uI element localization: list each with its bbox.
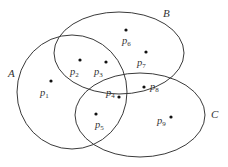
set-a-label: A (7, 67, 15, 79)
point-p5-label: p5 (94, 119, 104, 132)
point-p3-dot (104, 60, 107, 63)
point-p6-label: p6 (121, 35, 131, 48)
point-p2-label: p2 (69, 66, 79, 79)
point-p5-dot (94, 112, 97, 115)
point-p9-dot (169, 115, 172, 118)
set-b-label: B (163, 7, 170, 19)
data-points: p1p2p3p4p5p6p7p8p9 (39, 28, 173, 132)
set-ellipses: ABC (7, 7, 219, 157)
point-p1-label: p1 (39, 87, 49, 100)
point-p6-dot (124, 28, 127, 31)
point-p9-label: p9 (156, 115, 166, 128)
point-p8-dot (142, 85, 145, 88)
set-b-ellipse (54, 12, 184, 94)
point-p4-dot (117, 95, 120, 98)
point-p2-dot (78, 58, 81, 61)
point-p4-label: p4 (105, 87, 115, 100)
venn-diagram: ABC p1p2p3p4p5p6p7p8p9 (0, 0, 228, 167)
point-p1-dot (49, 79, 52, 82)
point-p3-label: p3 (93, 66, 103, 79)
set-c-label: C (211, 108, 219, 120)
point-p7-label: p7 (136, 57, 146, 70)
point-p7-dot (144, 50, 147, 53)
point-p8-label: p8 (149, 81, 159, 94)
